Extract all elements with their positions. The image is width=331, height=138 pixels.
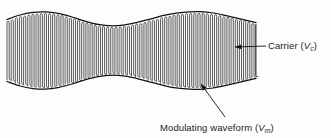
carrier-cycle [161,18,164,84]
carrier-cycle [86,23,89,78]
carrier-cycle [244,21,247,80]
carrier-cycle [206,14,209,87]
carrier-cycle [219,16,222,86]
carrier-cycle [44,13,47,87]
carrier-label: Carrier (Vc) [268,40,317,52]
carrier-cycle [144,22,147,78]
carrier-cycle [202,13,205,87]
carrier-cycle [90,24,93,77]
carrier-cycle [107,27,110,74]
modulating-label-close: ) [271,122,274,133]
carrier-cycle [82,22,85,79]
carrier-cycle [61,15,64,85]
carrier-cycle [223,17,226,84]
carrier-cycle [148,21,151,80]
carrier-cycle [111,27,114,73]
carrier-arrowhead-icon [235,44,241,49]
carrier-cycle [169,16,172,84]
carrier-cycle [65,17,68,84]
carrier-cycle [69,18,72,83]
am-waveform-figure: Carrier (Vc) Modulating waveform (Vm) [0,0,331,138]
carrier-cycle [115,27,118,73]
carrier-cycle [185,14,188,88]
carrier-cycle [78,20,81,81]
carrier-cycle [140,24,143,78]
carrier-cycle [15,18,18,83]
carrier-cycle [194,13,197,87]
carrier-cycle [119,27,122,74]
carrier-cycle [227,17,230,84]
carrier-cycle [24,16,27,85]
carrier-cycle [239,20,242,80]
carrier-cycle [19,17,22,85]
carrier-label-main: Carrier ( [268,40,304,51]
carrier-cycle [40,14,43,88]
carrier-cycle [252,24,255,78]
carrier-cycle [36,14,39,87]
carrier-cycle [73,19,76,83]
carrier-cycle [11,20,14,81]
carrier-cycle [127,26,130,75]
carrier-cycle [235,20,238,82]
carrier-cycle [53,14,56,86]
carrier-cycle [177,14,180,86]
carrier-cycle [94,25,97,75]
carrier-waveform [7,13,258,87]
carrier-cycle [136,24,139,77]
carrier-cycle [173,15,176,86]
carrier-cycle [165,17,168,84]
modulating-label: Modulating waveform (Vm) [160,122,274,134]
carrier-cycle [123,26,126,74]
carrier-cycle [132,25,135,76]
carrier-cycle [190,13,193,87]
carrier-cycle [152,20,155,81]
carrier-cycle [28,15,31,86]
carrier-cycle [181,14,184,87]
carrier-cycle [49,14,52,88]
carrier-cycle [215,15,218,87]
carrier-label-close: ) [314,40,317,51]
carrier-cycle [248,22,251,79]
modulating-annotation: Modulating waveform (Vm) [160,84,274,134]
modulating-label-main: Modulating waveform ( [160,122,259,133]
carrier-cycle [7,21,10,80]
carrier-cycle [57,15,60,86]
carrier-cycle [102,26,105,74]
carrier-cycle [32,14,35,87]
carrier-cycle [210,14,213,86]
carrier-cycle [156,19,159,81]
carrier-cycle [256,24,258,77]
carrier-cycle [198,13,201,87]
carrier-cycle [98,26,101,75]
carrier-cycle [231,18,234,83]
